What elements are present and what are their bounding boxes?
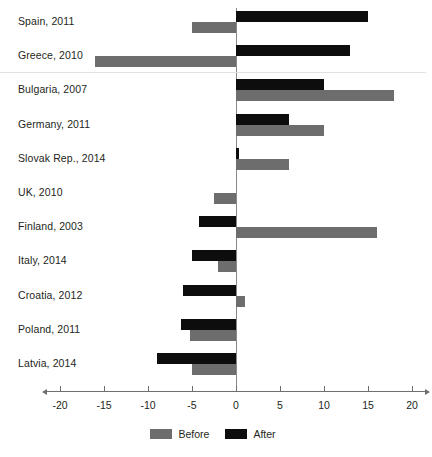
legend-label-before: Before: [178, 428, 209, 440]
bar-before: [95, 56, 236, 67]
bar-before: [218, 261, 236, 272]
axis-tick-label: -20: [40, 399, 80, 411]
axis-arrow-left-icon: [42, 389, 47, 395]
bar-after: [236, 11, 368, 22]
axis-tick: [236, 386, 237, 391]
category-label: Croatia, 2012: [18, 289, 82, 301]
axis-tick: [324, 386, 325, 391]
bar-after: [157, 353, 236, 364]
bar-before: [236, 296, 245, 307]
legend-item-before: Before: [150, 428, 209, 440]
bar-after: [236, 79, 324, 90]
bar-before: [192, 22, 236, 33]
axis-tick-label: -10: [128, 399, 168, 411]
category-label: Germany, 2011: [18, 118, 90, 130]
axis-tick-label: 15: [348, 399, 388, 411]
category-label: Slovak Rep., 2014: [18, 152, 106, 164]
axis-tick-label: 0: [216, 399, 256, 411]
axis-tick: [412, 386, 413, 391]
bar-before: [190, 330, 236, 341]
axis-tick-label: 10: [304, 399, 344, 411]
category-label: Spain, 2011: [18, 15, 74, 27]
category-label: Bulgaria, 2007: [18, 83, 87, 95]
bar-after: [236, 114, 289, 125]
axis-tick: [104, 386, 105, 391]
axis-line: [47, 391, 425, 392]
category-label: Italy, 2014: [18, 254, 67, 266]
axis-arrow-right-icon: [425, 389, 430, 395]
bar-after: [199, 216, 236, 227]
axis-tick: [148, 386, 149, 391]
legend-label-after: After: [253, 428, 275, 440]
category-label: UK, 2010: [18, 186, 63, 198]
plot-area: Spain, 2011Greece, 2010Bulgaria, 2007Ger…: [0, 0, 426, 390]
bar-before: [214, 193, 236, 204]
bar-after: [181, 319, 236, 330]
bar-before: [236, 159, 289, 170]
category-label: Poland, 2011: [18, 323, 80, 335]
category-label: Finland, 2003: [18, 220, 83, 232]
axis-tick: [368, 386, 369, 391]
axis-tick: [60, 386, 61, 391]
bar-after: [236, 148, 239, 159]
zero-baseline: [236, 8, 237, 387]
bar-before: [236, 227, 377, 238]
legend-swatch-before-icon: [150, 429, 172, 439]
axis-tick: [280, 386, 281, 391]
bar-after: [192, 250, 236, 261]
axis-tick-label: 20: [392, 399, 432, 411]
bar-before: [192, 364, 236, 375]
bar-before: [236, 125, 324, 136]
axis-tick-label: 5: [260, 399, 300, 411]
legend-item-after: After: [225, 428, 275, 440]
category-label: Latvia, 2014: [18, 357, 76, 369]
bar-after: [236, 45, 350, 56]
group-separator: [0, 72, 426, 73]
axis-tick-label: -15: [84, 399, 124, 411]
axis-tick-label: -5: [172, 399, 212, 411]
axis-tick: [192, 386, 193, 391]
bar-after: [183, 285, 236, 296]
chart-legend: Before After: [0, 428, 426, 440]
category-label: Greece, 2010: [18, 49, 83, 61]
legend-swatch-after-icon: [225, 429, 247, 439]
bar-before: [236, 90, 394, 101]
